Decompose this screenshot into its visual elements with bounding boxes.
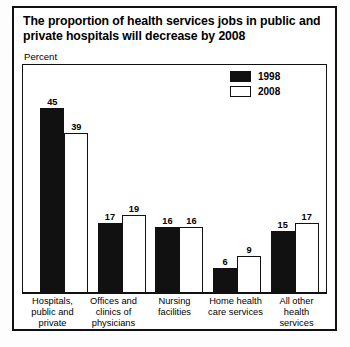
bar-value-label: 16 bbox=[186, 216, 196, 226]
bar-item: 39 bbox=[64, 65, 88, 293]
bar-2008 bbox=[122, 215, 146, 293]
bar-item: 45 bbox=[40, 65, 64, 293]
bar-1998 bbox=[98, 223, 122, 293]
bar-2008 bbox=[179, 227, 203, 293]
category-labels: Hospitals, public and privateOffices and… bbox=[22, 296, 327, 329]
bar-2008 bbox=[64, 133, 88, 293]
category-label: All other health services bbox=[266, 296, 327, 329]
category-label: Offices and clinics of physicians bbox=[83, 296, 144, 329]
bar-group: 4539 bbox=[37, 65, 92, 293]
chart-page: The proportion of health services jobs i… bbox=[0, 0, 350, 347]
bar-group: 1517 bbox=[267, 65, 322, 293]
bar-value-label: 19 bbox=[129, 204, 139, 214]
category-label: Home health care services bbox=[205, 296, 266, 329]
bar-value-label: 17 bbox=[302, 212, 312, 222]
bar-groups: 453917191616691517 bbox=[37, 65, 322, 293]
bar-1998 bbox=[40, 108, 64, 293]
bar-2008 bbox=[295, 223, 319, 293]
bar-group: 1719 bbox=[95, 65, 150, 293]
bar-value-label: 17 bbox=[105, 212, 115, 222]
bar-value-label: 39 bbox=[71, 122, 81, 132]
bar-item: 16 bbox=[155, 65, 179, 293]
bar-1998 bbox=[213, 268, 237, 293]
bar-value-label: 45 bbox=[47, 97, 57, 107]
bar-value-label: 16 bbox=[162, 216, 172, 226]
chart-title: The proportion of health services jobs i… bbox=[23, 14, 323, 44]
chart-frame: The proportion of health services jobs i… bbox=[12, 6, 337, 331]
bar-group: 1616 bbox=[152, 65, 207, 293]
bar-item: 17 bbox=[295, 65, 319, 293]
bar-1998 bbox=[271, 231, 295, 293]
bar-item: 6 bbox=[213, 65, 237, 293]
bar-value-label: 15 bbox=[278, 220, 288, 230]
bar-item: 19 bbox=[122, 65, 146, 293]
bar-item: 15 bbox=[271, 65, 295, 293]
bar-item: 16 bbox=[179, 65, 203, 293]
y-axis-label: Percent bbox=[24, 51, 57, 62]
category-label: Nursing facilities bbox=[144, 296, 205, 329]
bar-value-label: 9 bbox=[247, 245, 252, 255]
bar-value-label: 6 bbox=[223, 257, 228, 267]
bar-2008 bbox=[237, 256, 261, 293]
bar-item: 17 bbox=[98, 65, 122, 293]
category-label: Hospitals, public and private bbox=[22, 296, 83, 329]
bar-group: 69 bbox=[210, 65, 265, 293]
bar-1998 bbox=[155, 227, 179, 293]
x-axis-baseline bbox=[23, 292, 326, 294]
bar-item: 9 bbox=[237, 65, 261, 293]
plot-area: 1998 2008 453917191616691517 bbox=[22, 64, 327, 294]
